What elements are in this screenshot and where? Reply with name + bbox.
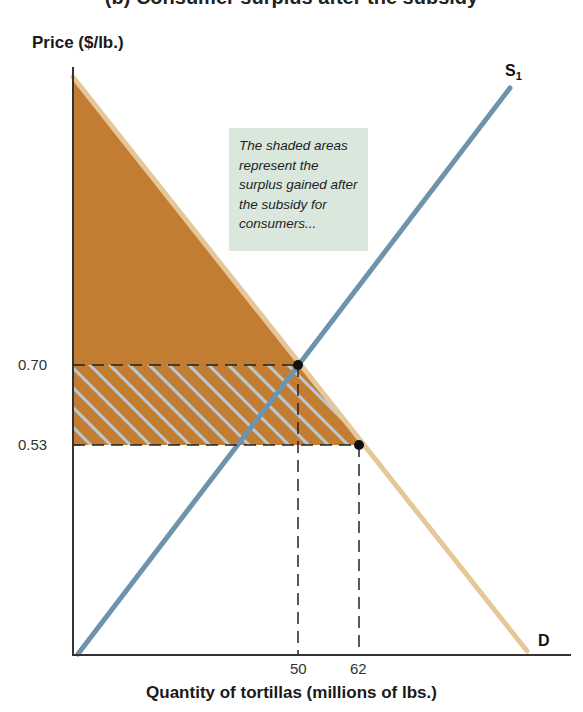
x-tick-62: 62 (350, 660, 367, 677)
equilibrium-point-subsidy (354, 440, 364, 450)
supply-label: S1 (505, 62, 522, 82)
x-axis-label: Quantity of tortillas (millions of lbs.) (0, 683, 583, 703)
demand-label: D (538, 632, 550, 650)
annotation-callout: The shaded areas represent the surplus g… (229, 128, 368, 251)
x-tick-50: 50 (290, 660, 307, 677)
chart-canvas (0, 0, 583, 712)
y-tick-0.70: 0.70 (18, 356, 47, 373)
y-axis-label: Price ($/lb.) (32, 33, 124, 53)
equilibrium-point-original (293, 360, 303, 370)
surplus-gain-area (73, 365, 364, 445)
y-tick-0.53: 0.53 (18, 436, 47, 453)
